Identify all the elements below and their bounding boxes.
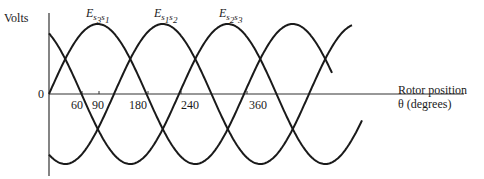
x-tick-label-240: 240 xyxy=(181,99,199,111)
curve-label-es2s3: Es2s3 xyxy=(219,7,242,25)
y-axis-label: Volts xyxy=(4,12,28,24)
x-axis-unit-label: θ (degrees) xyxy=(398,98,451,110)
origin-label: 0 xyxy=(38,88,44,100)
x-axis-label: Rotor position xyxy=(398,84,467,96)
x-tick-label-180: 180 xyxy=(129,99,147,111)
curve-label-es3s1: Es3s1 xyxy=(86,7,109,25)
curve-label-es1s2: Es1s2 xyxy=(154,7,177,25)
x-tick-label-60: 60 xyxy=(71,99,83,111)
x-tick-label-90: 90 xyxy=(92,99,104,111)
x-tick-label-360: 360 xyxy=(249,99,267,111)
